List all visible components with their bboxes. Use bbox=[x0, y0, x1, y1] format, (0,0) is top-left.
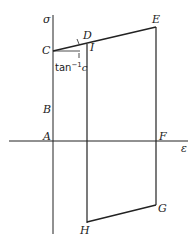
angle-arrow-top bbox=[77, 39, 79, 44]
diagram: σ ε C D E I B A F G H tan−1c bbox=[0, 0, 196, 243]
point-G: G bbox=[158, 203, 167, 214]
point-C: C bbox=[42, 45, 50, 56]
tan-variable: c bbox=[82, 62, 88, 73]
line-HG bbox=[87, 205, 156, 222]
tan-exponent: −1 bbox=[71, 61, 81, 69]
point-A: A bbox=[43, 131, 51, 142]
tan-text: tan bbox=[55, 62, 71, 73]
epsilon-label: ε bbox=[181, 143, 187, 154]
point-B: B bbox=[43, 104, 51, 115]
point-I: I bbox=[90, 42, 94, 53]
slope-annotation: tan−1c bbox=[55, 62, 87, 73]
line-CE bbox=[53, 27, 156, 51]
point-D: D bbox=[83, 30, 92, 41]
point-F: F bbox=[159, 131, 167, 142]
point-E: E bbox=[152, 14, 160, 25]
sigma-label: σ bbox=[43, 14, 51, 25]
point-H: H bbox=[80, 225, 90, 236]
